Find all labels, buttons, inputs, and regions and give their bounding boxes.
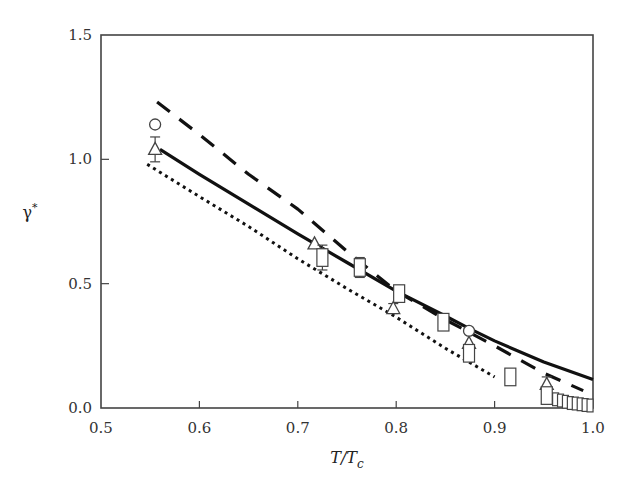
circle-marker (464, 325, 475, 336)
solid-curve (160, 149, 593, 379)
x-axis-label-subscript: c (357, 457, 364, 471)
y-axis-label-main: γ (22, 203, 32, 222)
square-marker (354, 259, 365, 277)
chart: 0.50.60.70.80.91.0 0.00.51.01.5 T/Tc γ* (0, 0, 637, 491)
x-axis-label: T/Tc (330, 448, 364, 471)
y-tick-label: 0.5 (68, 275, 92, 293)
y-tick-label: 1.0 (68, 150, 92, 168)
dotted-curve (147, 164, 494, 377)
series-lines (147, 102, 593, 391)
square-marker (394, 285, 405, 303)
square-marker (438, 313, 449, 331)
square-marker (587, 399, 593, 412)
triangle-marker (149, 142, 162, 154)
x-axis-label-main: T/T (330, 448, 358, 467)
dashed-curve (157, 102, 583, 391)
y-axis-label: γ* (22, 201, 38, 222)
y-axis: 0.00.51.01.5 (68, 26, 109, 417)
series-markers (149, 119, 593, 412)
triangle-marker (308, 237, 321, 249)
x-axis: 0.50.60.70.80.91.0 (89, 401, 605, 437)
x-tick-label: 0.8 (384, 419, 408, 437)
y-axis-label-superscript: * (32, 201, 38, 214)
x-tick-label: 0.9 (483, 419, 507, 437)
x-tick-label: 0.5 (89, 419, 113, 437)
y-tick-label: 1.5 (68, 26, 92, 44)
x-tick-label: 0.7 (286, 419, 310, 437)
square-marker (541, 387, 552, 405)
square-marker (505, 368, 516, 386)
x-tick-label: 0.6 (187, 419, 211, 437)
x-tick-label: 1.0 (581, 419, 605, 437)
square-marker (464, 344, 475, 362)
circle-marker (150, 119, 161, 130)
square-marker (317, 249, 328, 267)
y-tick-label: 0.0 (68, 399, 92, 417)
